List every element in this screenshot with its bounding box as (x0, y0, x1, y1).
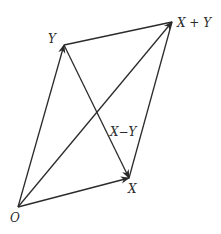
vector-o-to-xplusy (18, 22, 172, 207)
label-y: Y (48, 32, 57, 46)
label-o: O (10, 211, 20, 225)
vector-o-to-x (18, 178, 129, 207)
vector-diagram: O X Y X + Y X−Y (0, 0, 221, 234)
vector-o-to-y (18, 45, 64, 207)
label-x-plus-y: X + Y (176, 16, 212, 30)
label-x-minus-y: X−Y (109, 125, 138, 139)
edge-x-to-xplusy (129, 22, 172, 178)
vector-y-to-x (64, 45, 129, 178)
label-x: X (127, 182, 137, 196)
